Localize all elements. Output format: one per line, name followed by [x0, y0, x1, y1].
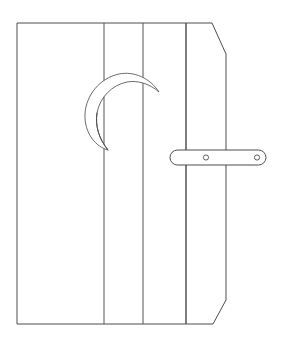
door-latch-handle[interactable]: [170, 150, 266, 165]
outhouse-door-illustration: [0, 0, 283, 346]
door-panel-outline: [17, 23, 226, 324]
screw-hole-right-icon: [254, 155, 259, 160]
latch-bar-body[interactable]: [170, 150, 266, 165]
drawing-canvas: [0, 0, 283, 346]
screw-hole-left-icon: [203, 155, 208, 160]
